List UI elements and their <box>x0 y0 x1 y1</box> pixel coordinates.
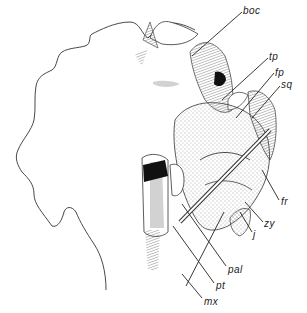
label-sq: sq <box>281 80 293 90</box>
label-zy: zy <box>264 219 275 229</box>
label-j: j <box>253 230 256 240</box>
label-boc: boc <box>243 6 261 16</box>
label-mx: mx <box>204 297 218 307</box>
label-fr: fr <box>281 197 288 207</box>
skull-drawing <box>0 0 307 313</box>
skull-diagram: boc tp fp sq fr zy j pal pt mx <box>0 0 307 313</box>
label-pt: pt <box>216 281 225 291</box>
basioccipital <box>190 43 233 113</box>
label-tp: tp <box>269 52 278 62</box>
bone-cap <box>150 22 198 45</box>
label-pal: pal <box>228 265 243 275</box>
label-fp: fp <box>275 68 284 78</box>
skull-outline <box>16 22 195 290</box>
